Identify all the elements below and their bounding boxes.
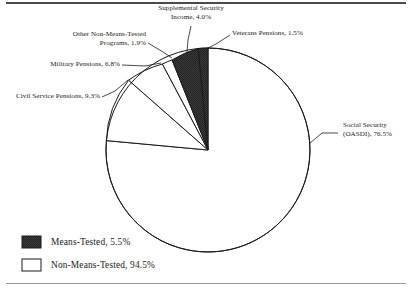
leader-line-social-security	[310, 133, 338, 143]
legend-swatch-non-means-tested	[22, 259, 41, 271]
label-other-non-means-tested-programs: Other Non-Means-Tested Programs, 1.9%	[0, 30, 146, 48]
legend-label-non-means-tested: Non-Means-Tested, 94.5%	[51, 259, 155, 271]
label-veterans-pensions-line1: Veterans Pensions, 1.5%	[232, 29, 303, 38]
label-supplemental-security-income-line2: Income, 4.0%	[118, 13, 264, 22]
leader-line-supplemental-security-income	[187, 26, 191, 52]
leader-line-other-non-means-tested-programs	[148, 43, 172, 58]
label-social-security-line1: Social Security	[343, 121, 392, 130]
label-supplemental-security-income: Supplemental Security Income, 4.0%	[118, 4, 264, 22]
label-supplemental-security-income-line1: Supplemental Security	[118, 4, 264, 13]
legend-swatch-means-tested	[22, 236, 41, 248]
label-social-security: Social Security (OASDI), 76.5%	[343, 121, 392, 139]
legend-label-means-tested: Means-Tested, 5.5%	[51, 236, 130, 248]
label-civil-service-pensions: Civil Service Pensions, 9.3%	[0, 92, 100, 101]
leader-line-veterans-pensions	[206, 35, 230, 49]
label-social-security-line2: (OASDI), 76.5%	[343, 130, 392, 139]
leader-line-military-pensions	[122, 63, 161, 66]
label-military-pensions: Military Pensions, 6.8%	[0, 60, 120, 69]
label-veterans-pensions: Veterans Pensions, 1.5%	[232, 29, 303, 38]
label-civil-service-pensions-line1: Civil Service Pensions, 9.3%	[0, 92, 100, 101]
label-other-non-means-tested-programs-line1: Other Non-Means-Tested	[0, 30, 146, 39]
label-military-pensions-line1: Military Pensions, 6.8%	[0, 60, 120, 69]
label-other-non-means-tested-programs-line2: Programs, 1.9%	[0, 39, 146, 48]
pie-chart-figure: Supplemental Security Income, 4.0% Veter…	[0, 0, 412, 293]
